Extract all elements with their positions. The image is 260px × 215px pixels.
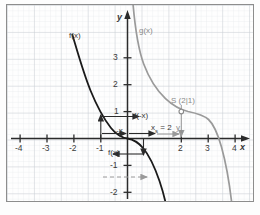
x-tick--4: -4 — [15, 144, 23, 153]
x-tick-4: 4 — [232, 144, 237, 153]
label-f-lower: f(x) — [108, 149, 120, 157]
label-xs-value: = 2 — [160, 123, 171, 132]
y-axis-label: y — [117, 13, 122, 22]
y-tick-3: 3 — [113, 53, 118, 62]
plot-layer — [7, 5, 253, 201]
x-axis-label: x — [240, 143, 245, 152]
y-axis — [124, 10, 132, 199]
label-ys: ys — [176, 124, 183, 134]
y-tick-2: 2 — [113, 80, 118, 89]
y-tick--2: -2 — [110, 188, 118, 197]
x-tick--2: -2 — [69, 144, 77, 153]
label-f-reflected: f(-x) — [134, 112, 148, 120]
y-tick-1: 1 — [114, 107, 119, 116]
label-ys-sub: s — [180, 128, 183, 134]
label-xs-sub: s — [155, 128, 158, 134]
plot-frame: -4 -3 -2 -1 2 3 4 3 2 1 -1 -2 y x f(x) g… — [6, 4, 254, 202]
label-f-upper-left: f(x) — [69, 32, 81, 40]
label-neg-x: -x — [116, 127, 123, 135]
x-tick-3: 3 — [205, 144, 210, 153]
x-tick--3: -3 — [42, 144, 50, 153]
y-tick--1: -1 — [110, 161, 118, 170]
label-g: g(x) — [139, 27, 153, 35]
curve-f — [72, 35, 165, 202]
point-s-marker — [179, 109, 184, 114]
x-tick--1: -1 — [96, 144, 104, 153]
label-point-s: S (2|1) — [171, 97, 195, 105]
figure-container: -4 -3 -2 -1 2 3 4 3 2 1 -1 -2 y x f(x) g… — [0, 0, 260, 215]
x-tick-2: 2 — [178, 144, 183, 153]
label-xs: xs = 2 — [151, 124, 172, 134]
